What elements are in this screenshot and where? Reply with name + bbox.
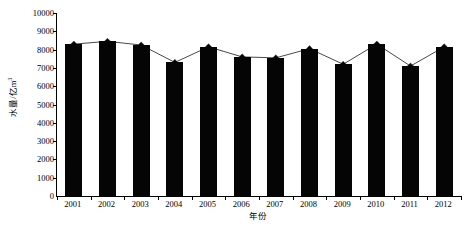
y-axis-tick-mark xyxy=(53,178,57,179)
bar xyxy=(402,66,419,196)
y-axis-tick-mark xyxy=(53,141,57,142)
x-axis-title: 年份 xyxy=(56,212,460,221)
bar xyxy=(99,41,116,196)
y-axis-tick-mark xyxy=(53,123,57,124)
trend-line xyxy=(74,41,444,66)
y-axis-tick-label: 0 xyxy=(16,192,54,201)
bar xyxy=(267,58,284,196)
y-axis-tick-label: 4000 xyxy=(16,119,54,128)
x-axis-tick-label: 2012 xyxy=(423,199,463,209)
trend-line-overlay xyxy=(57,13,461,196)
y-axis-tick-label: 10000 xyxy=(16,9,54,18)
y-axis-tick-mark xyxy=(53,13,57,14)
bar xyxy=(301,49,318,196)
bar xyxy=(65,44,82,196)
y-axis-tick-label: 6000 xyxy=(16,82,54,91)
plot-area xyxy=(56,13,461,197)
y-axis-tick-label: 2000 xyxy=(16,155,54,164)
y-axis-tick-label: 1000 xyxy=(16,173,54,182)
bar xyxy=(436,47,453,196)
y-axis-tick-labels: 0100020003000400050006000700080009000100… xyxy=(16,0,54,242)
y-axis-tick-label: 7000 xyxy=(16,64,54,73)
bar xyxy=(368,44,385,196)
y-axis-tick-mark xyxy=(53,68,57,69)
y-axis-tick-mark xyxy=(53,105,57,106)
y-axis-tick-mark xyxy=(53,159,57,160)
y-axis-tick-label: 3000 xyxy=(16,137,54,146)
chart-figure: 水量/亿m3 010002000300040005000600070008000… xyxy=(0,0,469,242)
bar xyxy=(234,57,251,196)
y-axis-tick-label: 8000 xyxy=(16,45,54,54)
y-axis-tick-label: 5000 xyxy=(16,100,54,109)
bar xyxy=(133,45,150,196)
y-axis-tick-label: 9000 xyxy=(16,27,54,36)
y-axis-title-superscript: 3 xyxy=(7,78,13,81)
y-axis-tick-mark xyxy=(53,31,57,32)
y-axis-tick-mark xyxy=(53,50,57,51)
bar xyxy=(335,64,352,196)
bar xyxy=(166,62,183,196)
y-axis-tick-mark xyxy=(53,86,57,87)
plot-inner xyxy=(57,13,461,196)
bar xyxy=(200,47,217,196)
